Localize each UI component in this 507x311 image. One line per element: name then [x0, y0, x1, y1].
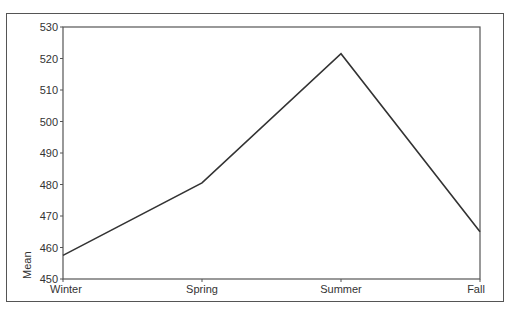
y-tick-label: 460: [40, 242, 58, 254]
data-line: [63, 54, 480, 256]
plot-area: [63, 27, 480, 279]
x-tick-label: Fall: [467, 283, 485, 295]
x-tick-label: Spring: [186, 283, 218, 295]
x-tick-label: Winter: [50, 283, 82, 295]
line-chart: 450460470480490500510520530 WinterSpring…: [0, 0, 507, 311]
x-axis: WinterSpringSummerFall: [50, 279, 485, 295]
y-tick-label: 490: [40, 147, 58, 159]
y-axis: 450460470480490500510520530: [40, 21, 63, 285]
y-tick-label: 500: [40, 116, 58, 128]
y-axis-title: Mean: [21, 251, 33, 279]
y-tick-label: 480: [40, 179, 58, 191]
x-tick-label: Summer: [320, 283, 362, 295]
y-tick-label: 510: [40, 84, 58, 96]
y-tick-label: 520: [40, 53, 58, 65]
y-tick-label: 530: [40, 21, 58, 33]
y-tick-label: 470: [40, 210, 58, 222]
